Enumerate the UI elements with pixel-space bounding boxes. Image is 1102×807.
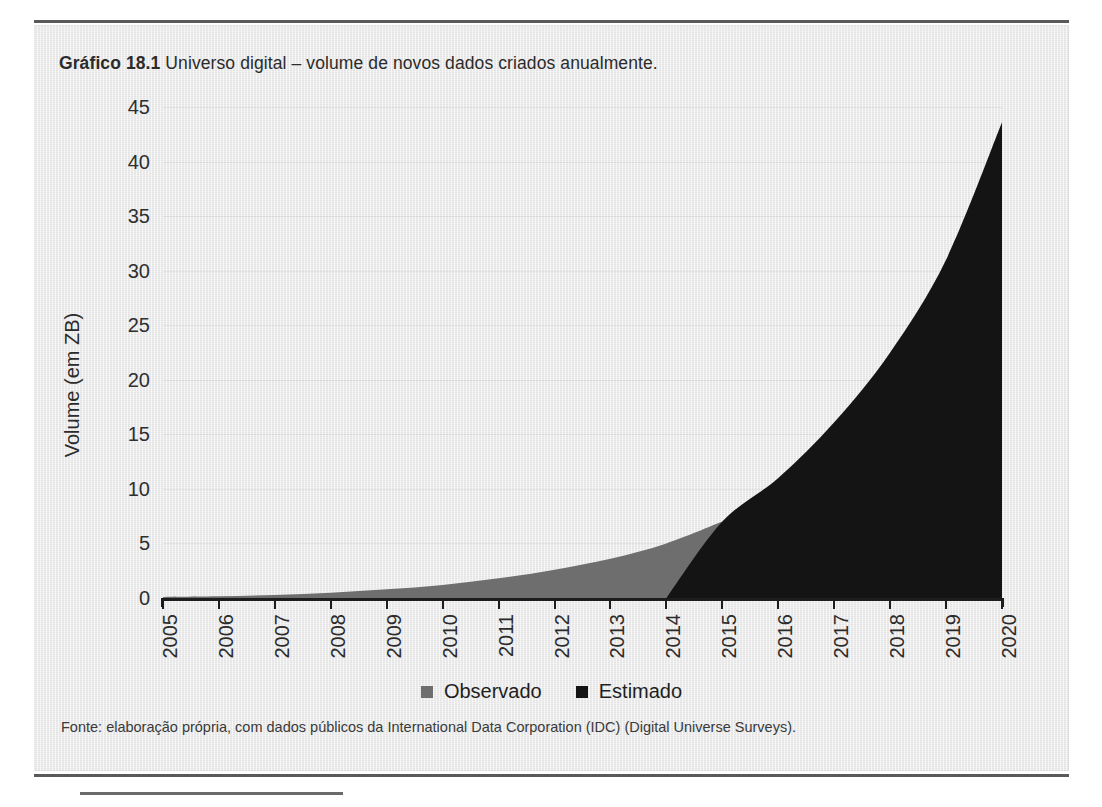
legend-item-observado: Observado xyxy=(421,680,542,703)
x-tick-label: 2006 xyxy=(214,614,237,659)
figure-title-number: Gráfico 18.1 xyxy=(59,53,160,73)
x-tick-label: 2008 xyxy=(326,614,349,659)
x-tick xyxy=(665,598,667,609)
x-tick xyxy=(162,598,164,609)
y-tick-label: 25 xyxy=(128,314,150,337)
x-tick xyxy=(609,598,611,609)
page: Gráfico 18.1 Universo digital – volume d… xyxy=(0,0,1102,807)
y-tick-label: 20 xyxy=(128,368,150,391)
page-top-rule xyxy=(34,20,1069,23)
x-tick-label: 2005 xyxy=(159,614,182,659)
legend-swatch-estimado xyxy=(576,686,588,698)
x-tick xyxy=(721,598,723,609)
x-tick-label: 2016 xyxy=(774,614,797,659)
chart-legend: Observado Estimado xyxy=(34,680,1069,703)
x-tick xyxy=(833,598,835,609)
x-tick-label: 2010 xyxy=(438,614,461,659)
x-tick-label: 2014 xyxy=(662,614,685,659)
x-tick xyxy=(330,598,332,609)
x-tick xyxy=(554,598,556,609)
x-tick-label: 2007 xyxy=(270,614,293,659)
y-tick-label: 45 xyxy=(128,96,150,119)
y-tick-label: 40 xyxy=(128,150,150,173)
x-tick xyxy=(442,598,444,609)
x-axis-line xyxy=(161,598,1004,601)
x-tick xyxy=(218,598,220,609)
figure-source-note: Fonte: elaboração própria, com dados púb… xyxy=(61,719,796,735)
x-tick-label: 2015 xyxy=(718,614,741,659)
legend-label-observado: Observado xyxy=(444,680,542,703)
x-tick-label: 2019 xyxy=(942,614,965,659)
x-tick xyxy=(945,598,947,609)
footnote-separator-rule xyxy=(80,792,343,795)
series-layer xyxy=(163,107,1002,598)
x-tick xyxy=(386,598,388,609)
figure-panel: Gráfico 18.1 Universo digital – volume d… xyxy=(34,25,1069,771)
series-area-observado xyxy=(163,522,722,598)
legend-swatch-observado xyxy=(421,686,433,698)
x-tick-label: 2017 xyxy=(830,614,853,659)
x-tick-label: 2011 xyxy=(494,614,517,657)
legend-item-estimado: Estimado xyxy=(576,680,682,703)
plot-area: 051015202530354045 200520062007200820092… xyxy=(163,107,1002,598)
x-tick-label: 2012 xyxy=(550,614,573,659)
y-tick-label: 0 xyxy=(139,587,150,610)
x-tick-label: 2013 xyxy=(606,614,629,659)
y-tick-label: 15 xyxy=(128,423,150,446)
x-tick xyxy=(1001,598,1003,609)
x-tick xyxy=(889,598,891,609)
x-tick-label: 2020 xyxy=(998,614,1021,659)
x-tick xyxy=(274,598,276,609)
y-tick-label: 30 xyxy=(128,259,150,282)
y-tick-label: 5 xyxy=(139,532,150,555)
y-tick-label: 10 xyxy=(128,477,150,500)
x-tick xyxy=(777,598,779,609)
x-tick-label: 2018 xyxy=(886,614,909,659)
figure-title-text: Universo digital – volume de novos dados… xyxy=(160,53,657,73)
legend-label-estimado: Estimado xyxy=(599,680,682,703)
page-bottom-rule xyxy=(34,774,1069,777)
y-axis-label: Volume (em ZB) xyxy=(61,313,84,457)
figure-title: Gráfico 18.1 Universo digital – volume d… xyxy=(59,53,658,74)
x-tick xyxy=(498,598,500,609)
x-tick-label: 2009 xyxy=(382,614,405,659)
y-tick-label: 35 xyxy=(128,205,150,228)
